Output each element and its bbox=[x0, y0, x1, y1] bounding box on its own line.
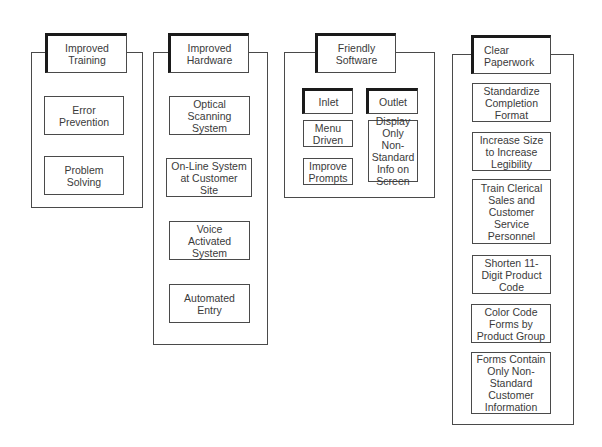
paperwork-header: Clear Paperwork bbox=[471, 35, 551, 74]
training-item-problem-solving: Problem Solving bbox=[44, 156, 124, 195]
hardware-header: Improved Hardware bbox=[168, 33, 249, 73]
software-header: Friendly Software bbox=[315, 33, 396, 73]
software-item-improve-prompts: Improve Prompts bbox=[303, 158, 353, 185]
paperwork-item-increase-size: Increase Size to Increase Legibility bbox=[472, 132, 551, 171]
hardware-item-voice-activated: Voice Activated System bbox=[169, 221, 250, 260]
hardware-item-online-system: On-Line System at Customer Site bbox=[166, 158, 252, 197]
paperwork-item-train-clerical: Train Clerical Sales and Customer Servic… bbox=[472, 179, 551, 244]
paperwork-item-color-code: Color Code Forms by Product Group bbox=[471, 304, 551, 343]
training-item-error-prevention: Error Prevention bbox=[44, 96, 124, 135]
training-header: Improved Training bbox=[45, 33, 127, 73]
paperwork-item-standardize: Standardize Completion Format bbox=[472, 83, 551, 122]
software-item-display-non-standard: Display Only Non- Standard Info on Scree… bbox=[368, 120, 418, 182]
hardware-item-optical-scanning: Optical Scanning System bbox=[169, 96, 250, 135]
software-item-menu-driven: Menu Driven bbox=[303, 120, 353, 147]
software-inlet-header: Inlet bbox=[302, 88, 353, 114]
software-outlet-header: Outlet bbox=[366, 88, 418, 114]
hardware-item-automated-entry: Automated Entry bbox=[169, 284, 250, 323]
paperwork-item-shorten-code: Shorten 11- Digit Product Code bbox=[472, 255, 551, 294]
paperwork-item-forms-contain: Forms Contain Only Non- Standard Custome… bbox=[471, 352, 551, 414]
